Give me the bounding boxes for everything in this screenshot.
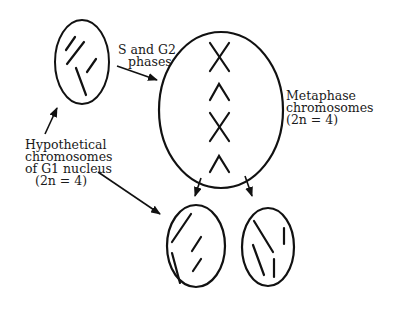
metaphase-chromosomes [210, 43, 229, 172]
daughter-left-chromosomes [172, 214, 201, 283]
daughter-right-chromosomes [253, 221, 284, 277]
arrow-to-daughter-left [98, 172, 160, 214]
daughter-nucleus-left [167, 205, 225, 287]
metaphase-cell [159, 32, 283, 188]
cell-cycle-diagram: S and G2 phases Metaphase chromosomes (2… [0, 0, 394, 309]
label-g1: Hypothetical chromosomes of G1 nucleus (… [25, 137, 117, 188]
g1-nucleus [55, 20, 109, 104]
g1-chromosomes [66, 37, 96, 95]
label-metaphase: Metaphase chromosomes (2n = 4) [286, 88, 378, 127]
daughter-nucleus-right [242, 208, 294, 286]
arrow-to-g1 [45, 108, 57, 134]
